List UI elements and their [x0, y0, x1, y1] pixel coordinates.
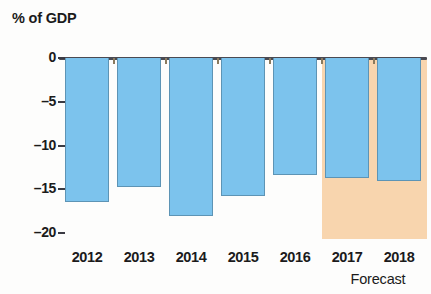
y-axis-tick-label-minus5: –5: [41, 93, 56, 109]
plot-area: 0 –5 –10 –15 –20: [0, 0, 431, 294]
forecast-annotation-label: Forecast: [330, 271, 426, 287]
bar-2014: [169, 58, 213, 216]
chart-figure: % of GDP 0 –5 –10 –15 –20: [0, 0, 431, 294]
y-axis-tick-label-0: 0: [49, 49, 56, 65]
y-axis-tick-mark-minus10: [58, 145, 65, 147]
x-axis-tick-5: [321, 58, 323, 64]
x-axis-label-2014: 2014: [165, 249, 217, 265]
x-axis-tick-6: [373, 58, 375, 64]
x-axis-tick-1: [113, 58, 115, 64]
y-axis-tick-mark-0: [58, 57, 65, 59]
bar-2018: [377, 58, 421, 181]
bar-2012: [65, 58, 109, 202]
x-axis-label-2017: 2017: [321, 249, 373, 265]
y-axis-tick-mark-minus15: [58, 188, 65, 190]
bar-2017: [325, 58, 369, 178]
y-axis-tick-label-minus15: –15: [34, 180, 56, 196]
y-axis-tick-mark-minus5: [58, 101, 65, 103]
bar-2013: [117, 58, 161, 187]
bar-2016: [273, 58, 317, 175]
x-axis-label-2013: 2013: [113, 249, 165, 265]
y-axis-tick-mark-minus20: [58, 232, 65, 234]
x-axis-label-2015: 2015: [217, 249, 269, 265]
x-axis-tick-2: [165, 58, 167, 64]
y-axis-tick-label-minus10: –10: [34, 137, 56, 153]
x-axis-label-2016: 2016: [269, 249, 321, 265]
x-axis-label-2018: 2018: [373, 249, 425, 265]
x-axis-label-2012: 2012: [61, 249, 113, 265]
x-axis-tick-3: [217, 58, 219, 64]
y-axis-tick-label-minus20: –20: [34, 224, 56, 240]
bar-2015: [221, 58, 265, 196]
x-axis-tick-4: [269, 58, 271, 64]
